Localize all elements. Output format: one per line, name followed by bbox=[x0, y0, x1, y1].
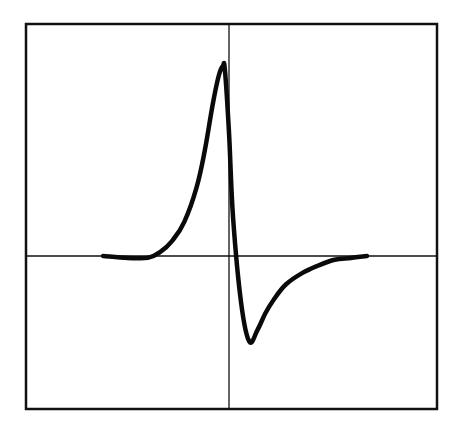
line-chart bbox=[0, 0, 458, 424]
waveform-line bbox=[103, 63, 367, 343]
